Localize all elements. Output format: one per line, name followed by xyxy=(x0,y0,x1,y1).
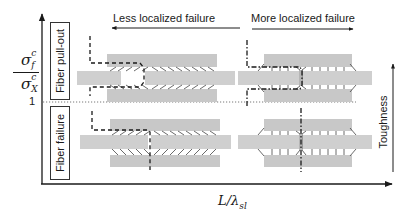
region-label-fiber-failure: Fiber failure xyxy=(50,106,70,180)
schematic-pullout-more-localized xyxy=(238,40,372,108)
more-localized-label: More localized failure xyxy=(251,12,355,24)
region-label-fiber-pullout: Fiber pull-out xyxy=(50,22,70,100)
schematic-failure-less-localized xyxy=(80,111,231,170)
y-axis-label: σcf σcX xyxy=(13,52,39,92)
schematic-failure-more-localized xyxy=(238,108,372,172)
schematic-pullout-less-localized xyxy=(77,36,235,102)
less-localized-label: Less localized failure xyxy=(113,12,215,24)
y-axis-numerator: σcf xyxy=(13,52,39,68)
x-axis-label: L/λsl xyxy=(218,193,247,211)
toughness-label: Toughness xyxy=(377,92,389,152)
y-tick-1: 1 xyxy=(29,95,35,107)
y-axis-denominator: σcX xyxy=(13,76,39,92)
